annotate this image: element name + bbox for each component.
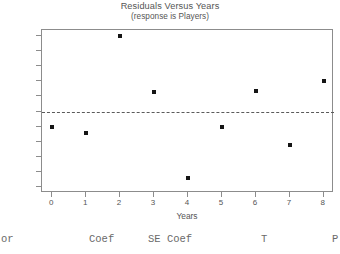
- x-axis-label: Years: [41, 211, 333, 221]
- table-column-header: SE Coef: [148, 233, 192, 245]
- table-column-header: T: [261, 233, 267, 245]
- data-point: [118, 34, 122, 38]
- table-column-header: P: [332, 233, 338, 245]
- residual-plot-screenshot: Residuals Versus Years (response is Play…: [0, 0, 340, 254]
- table-column-header: or: [1, 233, 14, 245]
- data-point: [322, 79, 326, 83]
- x-axis-tick-label: 4: [177, 198, 197, 207]
- x-axis-tick-mark: [255, 192, 256, 197]
- zero-reference-line: [42, 112, 334, 113]
- x-axis-tick-label: 0: [41, 198, 61, 207]
- x-axis-tick-label: 8: [313, 198, 333, 207]
- chart-subtitle: (response is Players): [0, 12, 340, 21]
- x-axis-tick-mark: [153, 192, 154, 197]
- x-axis-tick-mark: [51, 192, 52, 197]
- x-axis-tick-mark: [187, 192, 188, 197]
- x-axis-tick-label: 5: [211, 198, 231, 207]
- data-point: [288, 143, 292, 147]
- plot-area: [41, 29, 333, 192]
- table-column-header: Coef: [89, 233, 114, 245]
- x-axis-tick-mark: [119, 192, 120, 197]
- x-axis-tick-mark: [221, 192, 222, 197]
- x-axis-tick-label: 2: [109, 198, 129, 207]
- page-title: Residuals Versus Years: [0, 1, 340, 11]
- data-point: [220, 125, 224, 129]
- data-point: [152, 90, 156, 94]
- x-axis-tick-label: 1: [75, 198, 95, 207]
- data-point: [84, 131, 88, 135]
- x-axis-tick-label: 6: [245, 198, 265, 207]
- x-axis-tick-mark: [85, 192, 86, 197]
- x-axis-tick-label: 3: [143, 198, 163, 207]
- data-point: [254, 89, 258, 93]
- data-point: [186, 176, 190, 180]
- x-axis-tick-mark: [289, 192, 290, 197]
- regression-output-header: orCoefSE CoefTP: [0, 233, 340, 254]
- y-axis-label: Residual: [0, 59, 1, 92]
- x-axis-tick-label: 7: [279, 198, 299, 207]
- x-axis-tick-mark: [323, 192, 324, 197]
- data-point: [50, 125, 54, 129]
